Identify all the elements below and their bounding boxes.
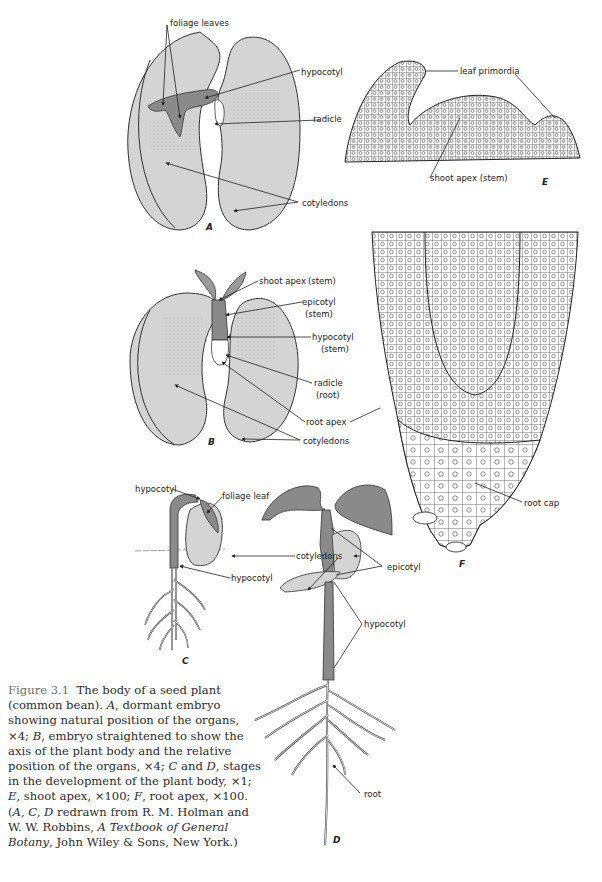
stem-b: [212, 300, 228, 340]
label-hypocotyl-c-top: hypocotyl: [135, 484, 177, 494]
label-shoot-apex-e: shoot apex (stem): [430, 173, 508, 183]
leader-root: [333, 765, 360, 793]
label-foliage-leaf: foliage leaf: [222, 491, 270, 501]
leaf-d-right: [335, 485, 392, 535]
label-cotyledons-b: cotyledons: [303, 436, 350, 446]
panel-letter-e: E: [542, 177, 549, 187]
sloughed-cell-1: [413, 512, 437, 524]
label-epicotyl-b-qual: (stem): [305, 309, 333, 319]
figure-caption: Figure 3.1 The body of a seed plant (com…: [8, 683, 263, 850]
label-shoot-apex-b-qual: (stem): [308, 276, 336, 286]
label-root-cap: root cap: [524, 498, 559, 508]
label-leaf-primordia: leaf primordia: [460, 66, 520, 76]
leader-hypocotyl-c-bottom: [180, 566, 230, 578]
label-hypocotyl-d: hypocotyl: [364, 619, 406, 629]
panel-letter-f: F: [459, 559, 466, 569]
panel-c: hypocotyl foliage leaf hypocotyl C: [135, 484, 273, 666]
label-hypocotyl-b: hypocotyl: [312, 332, 354, 342]
panel-b: shoot apex (stem) epicotyl (stem) hypoco…: [130, 270, 380, 447]
label-foliage-leaves: foliage leaves: [170, 18, 230, 28]
label-radicle-a: radicle: [313, 114, 342, 124]
panel-e: leaf primordia shoot apex (stem) E: [345, 61, 580, 187]
label-radicle-b-qual: (root): [316, 390, 340, 400]
caption-part: B: [33, 729, 42, 743]
caption-text: The body of a seed plant (common bean). …: [8, 683, 261, 849]
label-root: root: [364, 789, 382, 799]
leader-hypocotyl-d-1: [334, 582, 362, 624]
label-root-apex: root apex: [306, 417, 346, 427]
hypocotyl-d: [323, 582, 334, 680]
label-cotyledons-a: cotyledons: [302, 198, 349, 208]
panel-letter-c: C: [182, 656, 189, 666]
panel-letter-a: A: [205, 222, 213, 232]
roots-d: [255, 680, 395, 845]
label-shoot-apex-b: shoot apex: [259, 276, 306, 286]
label-hypocotyl-a: hypocotyl: [301, 67, 343, 77]
shoot-apex-tissue: [345, 61, 580, 162]
caption-part: , shoot apex, ×100;: [16, 789, 134, 803]
leaf-d-left: [262, 486, 325, 520]
caption-part: , John Wiley & Sons, New York.): [49, 835, 238, 849]
label-hypocotyl-b-qual: (stem): [321, 344, 349, 354]
panel-letter-b: B: [208, 437, 215, 447]
label-cotyledons-d: cotyledons: [296, 551, 343, 561]
caption-part: D: [207, 759, 216, 773]
cotyledon-right: [218, 37, 300, 230]
label-hypocotyl-c-bottom: hypocotyl: [231, 573, 273, 583]
caption-part: and: [177, 759, 206, 773]
label-epicotyl-d: epicotyl: [387, 562, 421, 572]
caption-part: A: [107, 698, 115, 712]
label-epicotyl-b: epicotyl: [302, 297, 336, 307]
leaf-b-right: [222, 272, 246, 300]
sloughed-cell-2: [446, 542, 466, 552]
figure-number: Figure 3.1: [8, 683, 69, 697]
leader-root-apex-f: [350, 408, 380, 422]
caption-part: F: [134, 789, 142, 803]
label-radicle-b: radicle: [314, 378, 343, 388]
radicle-b: [211, 340, 228, 365]
caption-part: A, C, D: [13, 805, 54, 819]
panel-letter-d: D: [333, 835, 341, 845]
leader-hypocotyl-d-2: [334, 624, 362, 668]
panel-a: foliage leaves hypocotyl radicle cotyled…: [128, 18, 349, 232]
panel-f: root cap F: [372, 232, 578, 569]
radicle: [215, 100, 224, 126]
